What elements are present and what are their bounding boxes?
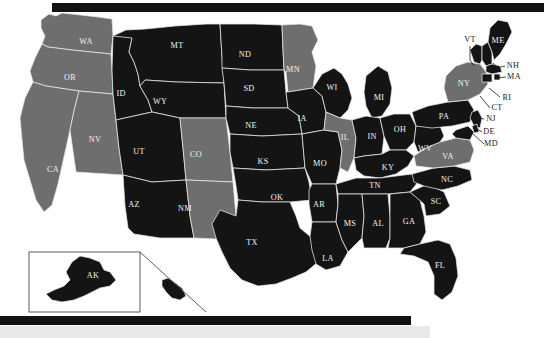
state-label-VA: VA	[442, 152, 453, 161]
state-label-OR: OR	[64, 73, 76, 82]
state-label-UT: UT	[133, 147, 145, 156]
state-label-MT: MT	[171, 41, 184, 50]
state-shape-MA[interactable]	[486, 64, 502, 74]
state-label-DE: DE	[483, 127, 495, 136]
state-label-MS: MS	[344, 219, 357, 228]
state-label-MN: MN	[286, 65, 300, 74]
state-label-PA: PA	[439, 112, 449, 121]
state-label-NJ: NJ	[486, 114, 496, 123]
state-shape-AK[interactable]	[46, 256, 116, 302]
state-label-TX: TX	[246, 238, 258, 247]
state-shape-MN[interactable]	[282, 24, 318, 92]
state-label-MO: MO	[313, 159, 327, 168]
state-label-TN: TN	[369, 181, 381, 190]
state-shape-TX[interactable]	[212, 200, 318, 286]
state-label-ND: ND	[239, 50, 251, 59]
state-shape-CT[interactable]	[482, 74, 492, 82]
state-shape-RI[interactable]	[494, 74, 500, 80]
state-label-AR: AR	[313, 200, 325, 209]
state-label-AL: AL	[372, 219, 384, 228]
state-label-WI: WI	[326, 83, 337, 92]
state-label-IN: IN	[367, 132, 376, 141]
leader-line-RI	[489, 88, 500, 97]
state-label-CO: CO	[190, 150, 202, 159]
state-label-SD: SD	[243, 84, 254, 93]
state-shape-ND[interactable]	[220, 24, 284, 70]
leader-line-CT	[480, 96, 490, 108]
state-label-NC: NC	[441, 175, 453, 184]
state-shape-FL[interactable]	[400, 240, 458, 300]
state-shape-MO[interactable]	[302, 130, 342, 184]
state-shape-NE[interactable]	[226, 106, 302, 136]
us-state-map: WAORIDMTNDSDWYNEIAMNWIMINVUTCOKSMOILINOH…	[0, 0, 544, 338]
state-shape-CO[interactable]	[180, 118, 233, 182]
state-label-OH: OH	[394, 125, 406, 134]
state-label-IL: IL	[341, 133, 349, 142]
state-label-NM: NM	[178, 204, 192, 213]
state-shape-UT[interactable]	[116, 112, 186, 182]
state-label-RI: RI	[503, 93, 512, 102]
state-label-NV: NV	[89, 135, 101, 144]
state-label-WY: WY	[153, 97, 167, 106]
state-label-IA: IA	[297, 114, 306, 123]
state-shape-VT[interactable]	[470, 44, 482, 64]
state-label-WA: WA	[79, 37, 92, 46]
state-label-CA: CA	[47, 165, 59, 174]
state-label-KY: KY	[382, 163, 394, 172]
state-label-AK: AK	[87, 271, 99, 280]
state-shape-CA[interactable]	[20, 82, 79, 212]
state-label-CT: CT	[491, 103, 502, 112]
state-label-NE: NE	[245, 121, 257, 130]
state-label-MA: MA	[507, 72, 521, 81]
state-label-NH: NH	[507, 61, 519, 70]
state-label-KS: KS	[257, 157, 268, 166]
state-shape-SD[interactable]	[222, 68, 288, 108]
state-label-GA: GA	[403, 217, 415, 226]
state-label-ME: ME	[492, 36, 505, 45]
state-label-MI: MI	[374, 93, 385, 102]
state-label-SC: SC	[431, 197, 442, 206]
state-label-VT: VT	[464, 35, 476, 44]
inset-diagonal-divider	[140, 252, 206, 312]
state-label-WV: WV	[418, 144, 432, 153]
state-label-OK: OK	[271, 193, 283, 202]
state-label-ID: ID	[116, 89, 125, 98]
state-label-NY: NY	[458, 79, 470, 88]
state-label-LA: LA	[322, 254, 334, 263]
leader-line-MD	[472, 133, 484, 144]
state-label-FL: FL	[435, 261, 445, 270]
state-label-MD: MD	[484, 139, 498, 148]
state-label-AZ: AZ	[128, 200, 140, 209]
map-canvas: WAORIDMTNDSDWYNEIAMNWIMINVUTCOKSMOILINOH…	[0, 0, 544, 338]
state-label-HI: HI	[167, 287, 176, 296]
